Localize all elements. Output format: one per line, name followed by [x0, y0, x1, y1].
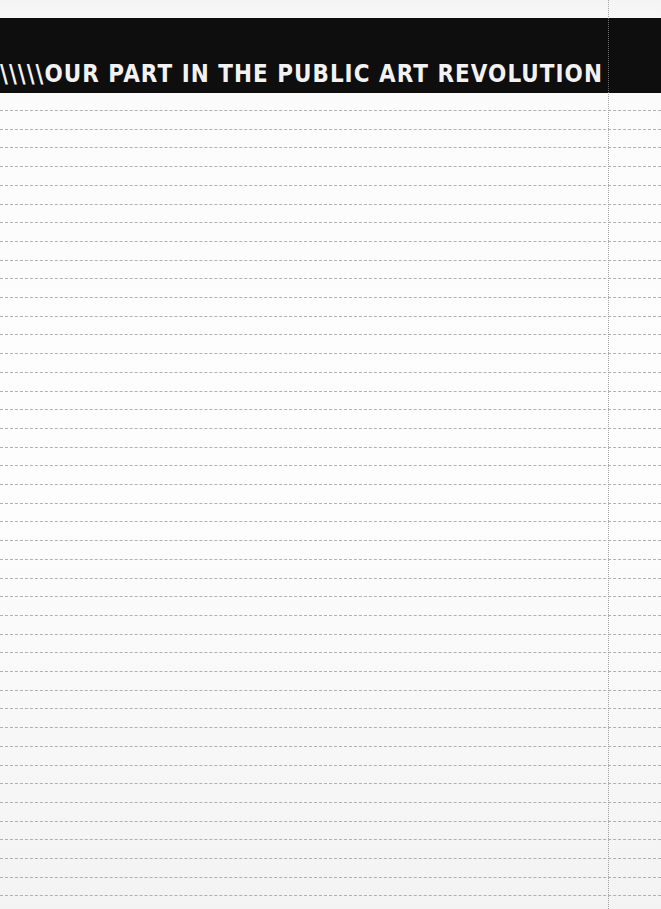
ruled-line — [0, 802, 661, 803]
ruled-line — [0, 634, 661, 635]
ruled-line — [0, 895, 661, 896]
ruled-line — [0, 484, 661, 485]
ruled-line — [0, 559, 661, 560]
ruled-lines — [0, 0, 661, 909]
ruled-line — [0, 391, 661, 392]
ruled-line — [0, 578, 661, 579]
ruled-line — [0, 129, 661, 130]
ruled-line — [0, 372, 661, 373]
ruled-line — [0, 652, 661, 653]
ruled-line — [0, 465, 661, 466]
ruled-line — [0, 858, 661, 859]
ruled-line — [0, 540, 661, 541]
margin-line — [608, 0, 609, 909]
ruled-line — [0, 783, 661, 784]
ruled-line — [0, 727, 661, 728]
ruled-line — [0, 241, 661, 242]
ruled-line — [0, 110, 661, 111]
ruled-line — [0, 521, 661, 522]
ruled-line — [0, 316, 661, 317]
ruled-line — [0, 877, 661, 878]
ruled-line — [0, 204, 661, 205]
ruled-line — [0, 185, 661, 186]
ruled-line — [0, 260, 661, 261]
ruled-line — [0, 765, 661, 766]
notepad-page: \\\\\OUR PART IN THE PUBLIC ART REVOLUTI… — [0, 0, 661, 909]
ruled-line — [0, 615, 661, 616]
ruled-line — [0, 278, 661, 279]
ruled-line — [0, 821, 661, 822]
ruled-line — [0, 334, 661, 335]
ruled-line — [0, 746, 661, 747]
ruled-line — [0, 690, 661, 691]
ruled-line — [0, 297, 661, 298]
ruled-line — [0, 147, 661, 148]
ruled-line — [0, 708, 661, 709]
ruled-line — [0, 409, 661, 410]
ruled-line — [0, 166, 661, 167]
ruled-line — [0, 596, 661, 597]
ruled-line — [0, 353, 661, 354]
ruled-line — [0, 222, 661, 223]
ruled-line — [0, 428, 661, 429]
ruled-line — [0, 839, 661, 840]
ruled-line — [0, 503, 661, 504]
ruled-line — [0, 447, 661, 448]
ruled-line — [0, 671, 661, 672]
